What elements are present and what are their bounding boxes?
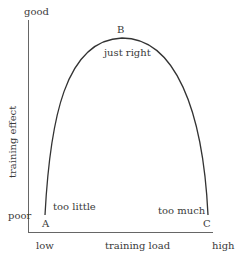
point-b-annotation: just right xyxy=(104,47,151,59)
point-c-marker: C xyxy=(203,218,211,230)
y-top-label: good xyxy=(24,6,49,18)
x-left-label: low xyxy=(36,240,54,252)
x-axis-label: training load xyxy=(105,240,170,252)
y-bottom-label: poor xyxy=(8,210,31,222)
point-a-marker: A xyxy=(42,218,49,230)
x-right-label: high xyxy=(212,240,234,252)
point-c-annotation: too much xyxy=(158,205,205,217)
point-a-annotation: too little xyxy=(53,201,96,213)
point-b-marker: B xyxy=(117,24,124,36)
y-axis-label: training effect xyxy=(7,108,19,178)
training-curve xyxy=(45,38,208,215)
